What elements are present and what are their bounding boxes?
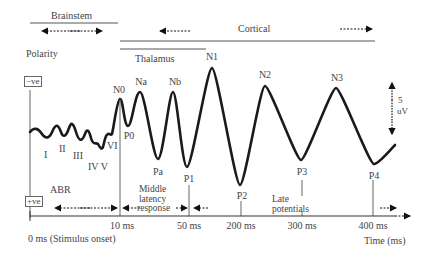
thalamus-label: Thalamus [135,54,174,64]
P1-label: P1 [184,174,195,184]
cortical-label: Cortical [238,24,270,34]
positive-polarity-box: +ve [25,196,43,207]
P3-label: P3 [297,167,308,177]
abr-label: ABR [50,185,71,195]
tick-label-200ms: 200 ms [226,221,255,231]
P0-label: P0 [124,131,135,141]
polarity-title: Polarity [26,49,58,59]
wave-VI-label: VI [107,141,118,151]
time-axis-title: Time (ms) [364,236,406,246]
tick-label-10ms: 10 ms [110,221,134,231]
N2-label: N2 [259,70,271,80]
brainstem-label: Brainstem [51,11,92,21]
middle-latency-response-label: Middle latency response [135,185,170,214]
waveform-diagram [0,0,432,254]
N1-label: N1 [206,52,218,62]
P2-label: P2 [237,191,248,201]
scale-bar-unit: uV [397,107,408,116]
stimulus-onset-label: 0 ms (Stimulus onset) [28,234,116,244]
tick-label-50ms: 50 ms [177,221,201,231]
mlr-line-3: response [137,204,170,214]
late-line-2: potentials [272,205,309,215]
wave-I-label: I [44,150,47,160]
negative-polarity-box: −ve [24,76,42,87]
N0-label: N0 [113,85,125,95]
wave-IVV-label: IV V [88,162,108,172]
scale-bar-value: 5 [398,96,403,105]
waveform-trace [30,68,395,185]
Na-label: Na [135,77,147,87]
wave-III-label: III [73,151,83,161]
P4-label: P4 [369,171,380,181]
wave-II-label: II [59,144,66,154]
Pa-label: Pa [153,167,163,177]
N3-label: N3 [331,73,343,83]
tick-label-400ms: 400 ms [358,221,387,231]
tick-label-300ms: 300 ms [287,221,316,231]
late-potentials-label: Late potentials [272,195,309,214]
Nb-label: Nb [169,77,181,87]
